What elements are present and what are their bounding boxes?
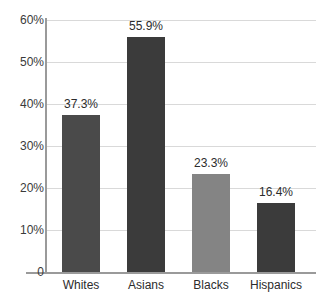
- y-axis-tick-40: 40%: [0, 98, 44, 110]
- y-axis-tick-label-20: 20%: [0, 182, 44, 194]
- y-axis-tick-label-50: 50%: [0, 56, 44, 68]
- y-axis-tick-60: 60%: [0, 14, 44, 26]
- bar-rect-asians: [127, 37, 165, 272]
- gridline-60: [47, 20, 316, 21]
- x-axis-label-blacks: Blacks: [181, 278, 241, 292]
- y-axis-tick-30: 30%: [0, 140, 44, 152]
- bar-rect-whites: [62, 115, 100, 272]
- y-axis-tick-label-30: 30%: [0, 140, 44, 152]
- bar-value-blacks: 23.3%: [194, 157, 228, 170]
- x-axis-label-asians: Asians: [116, 278, 176, 292]
- y-axis-tick-label-60: 60%: [0, 14, 44, 26]
- bar-chart: 60% 50% 40% 30% 20% 10% 0 37.3% 55.9% 23…: [0, 0, 328, 307]
- y-axis-tick-10: 10%: [0, 224, 44, 236]
- bar-whites: 37.3%: [62, 115, 100, 272]
- bar-hispanics: 16.4%: [257, 203, 295, 272]
- y-axis-tick-label-0: 0: [0, 266, 44, 278]
- y-axis-tick-label-10: 10%: [0, 224, 44, 236]
- bar-rect-hispanics: [257, 203, 295, 272]
- x-axis-label-hispanics: Hispanics: [241, 278, 311, 292]
- bar-blacks: 23.3%: [192, 174, 230, 272]
- y-axis-tick-0: 0: [0, 266, 44, 278]
- bar-value-whites: 37.3%: [64, 98, 98, 111]
- bar-asians: 55.9%: [127, 37, 165, 272]
- bar-rect-blacks: [192, 174, 230, 272]
- y-axis-tick-20: 20%: [0, 182, 44, 194]
- bar-value-hispanics: 16.4%: [259, 186, 293, 199]
- x-axis-label-whites: Whites: [51, 278, 111, 292]
- y-axis-line: [45, 18, 47, 273]
- x-axis-line: [26, 272, 316, 274]
- bar-value-asians: 55.9%: [129, 20, 163, 33]
- y-axis-tick-label-40: 40%: [0, 98, 44, 110]
- y-axis-tick-50: 50%: [0, 56, 44, 68]
- gridline-50: [47, 62, 316, 63]
